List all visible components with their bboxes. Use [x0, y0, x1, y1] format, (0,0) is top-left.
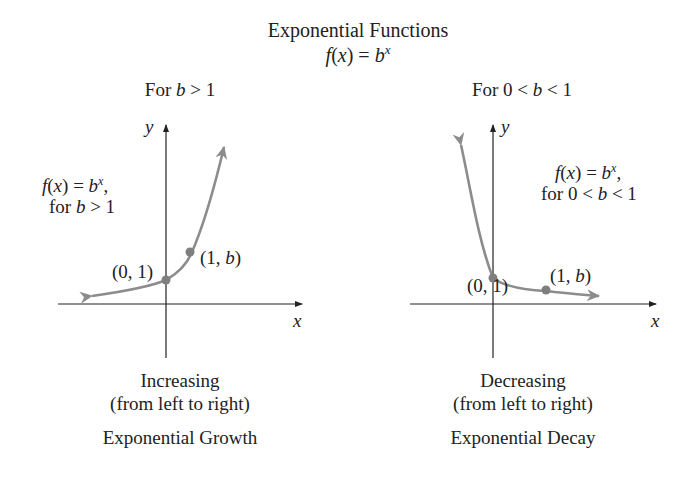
- formula-base: b: [375, 44, 385, 66]
- right-label-base: b: [602, 162, 612, 183]
- left-subtitle: For b > 1: [145, 80, 215, 99]
- right-pb-close: ): [585, 265, 591, 286]
- right-label2-var: b: [598, 183, 608, 204]
- right-label2-cond: < 1: [607, 183, 637, 204]
- right-caption-direction: (from left to right): [453, 394, 593, 413]
- left-point-1-b-label: (1, b): [200, 248, 241, 267]
- right-curve-label-line1: f(x) = bx,: [555, 162, 621, 182]
- right-curve-label-line2: for 0 < b < 1: [541, 184, 637, 203]
- right-pb-open: (1,: [550, 265, 575, 286]
- right-label2-prefix: for 0 <: [541, 183, 598, 204]
- left-curve-label-line1: f(x) = bx,: [42, 175, 108, 195]
- left-label-fn: f: [42, 175, 47, 196]
- left-subtitle-var: b: [176, 79, 186, 100]
- left-curve-label-line2: for b > 1: [49, 197, 115, 216]
- growth-point-1-b: [186, 248, 195, 257]
- left-pb-open: (1,: [200, 247, 225, 268]
- right-label-eq: =: [581, 162, 601, 183]
- right-y-label: y: [501, 117, 509, 136]
- formula-exp: x: [385, 42, 391, 57]
- main-formula: f(x) = bx: [326, 43, 391, 65]
- right-caption-decreasing: Decreasing: [480, 371, 565, 390]
- right-point-1-b-label: (1, b): [550, 266, 591, 285]
- left-axes: [58, 125, 302, 358]
- left-pb-close: ): [235, 247, 241, 268]
- left-caption-increasing: Increasing: [140, 371, 219, 390]
- right-subtitle: For 0 < b < 1: [472, 80, 572, 99]
- left-caption-direction: (from left to right): [110, 394, 250, 413]
- left-y-label: y: [145, 117, 153, 136]
- growth-point-0-1: [162, 276, 171, 285]
- formula-equals: =: [353, 44, 374, 66]
- right-label-comma: ,: [616, 162, 621, 183]
- left-point-0-1-label: (0, 1): [112, 262, 153, 281]
- left-label2-var: b: [76, 196, 86, 217]
- right-subtitle-cond: < 1: [542, 79, 572, 100]
- left-caption-growth: Exponential Growth: [103, 428, 258, 447]
- right-point-0-1-label: (0, 1): [467, 276, 508, 295]
- right-x-label: x: [651, 311, 659, 330]
- decay-point-1-b: [542, 286, 551, 295]
- left-label2-prefix: for: [49, 196, 76, 217]
- right-subtitle-prefix: For 0 <: [472, 79, 533, 100]
- left-label-comma: ,: [103, 175, 108, 196]
- right-subtitle-var: b: [533, 79, 543, 100]
- left-pb-var: b: [225, 247, 235, 268]
- left-subtitle-cond: > 1: [185, 79, 215, 100]
- right-pb-var: b: [575, 265, 585, 286]
- formula-var: x: [338, 44, 347, 66]
- left-subtitle-prefix: For: [145, 79, 176, 100]
- left-label-base: b: [89, 175, 99, 196]
- right-label-fn: f: [555, 162, 560, 183]
- right-axes: [410, 125, 656, 358]
- left-x-label: x: [293, 311, 301, 330]
- page-title: Exponential Functions: [268, 20, 449, 40]
- left-label2-cond: > 1: [85, 196, 115, 217]
- right-caption-decay: Exponential Decay: [450, 428, 595, 447]
- right-label-var: x: [567, 162, 575, 183]
- left-label-var: x: [54, 175, 62, 196]
- formula-fn: f: [326, 44, 332, 66]
- left-label-eq: =: [68, 175, 88, 196]
